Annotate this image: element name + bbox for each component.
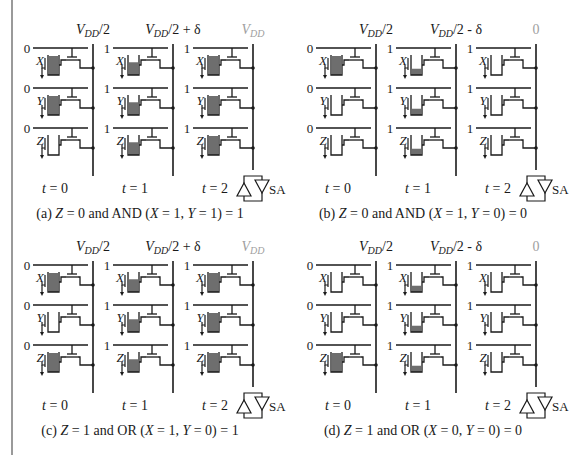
ground-arrow-icon [323, 332, 327, 336]
cell-label: Y [319, 93, 328, 108]
column-t2: 01X1Y1Zt = 2SA [467, 22, 569, 201]
time-step-label: t = 2 [202, 398, 228, 413]
panel-caption: (a) Z = 0 and AND (X = 1, Y = 1) = 1 [36, 206, 243, 222]
panel-c: VDD/20X0Y0Zt = 0VDD/2 + δ1X1Y1Zt = 1VDD1… [24, 239, 286, 439]
junction-dot [251, 323, 255, 327]
cell-label: Z [36, 133, 44, 148]
time-step-label: t = 2 [202, 181, 228, 196]
junction-dot [374, 146, 378, 150]
wordline-value: 0 [24, 298, 31, 313]
capacitor-charge [129, 279, 138, 292]
dram-cell-y: 1Y [387, 298, 458, 336]
dram-cell-y: 1Y [387, 81, 458, 119]
junction-dot [454, 323, 458, 327]
dram-cell-x: 1X [467, 258, 538, 296]
junction-dot [251, 363, 255, 367]
capacitor-charge [209, 273, 218, 292]
dram-cell-x: 1X [104, 258, 175, 296]
cell-label: Y [36, 310, 45, 325]
sense-amplifier-icon: SA [237, 393, 286, 418]
junction-dot [91, 66, 95, 70]
time-step-label: t = 2 [485, 398, 511, 413]
cell-label: X [195, 270, 205, 285]
capacitor-charge [209, 56, 218, 75]
dram-cell-x: 0X [24, 258, 95, 296]
cell-label: Y [399, 93, 408, 108]
wordline-value: 1 [467, 121, 474, 136]
ground-arrow-icon [200, 115, 204, 119]
dram-cell-z: 1Z [387, 338, 458, 376]
wordline-value: 1 [184, 81, 191, 96]
cell-label: Y [36, 93, 45, 108]
cell-label: X [195, 53, 205, 68]
capacitor [331, 312, 342, 332]
bitline-voltage-label: VDD/2 + δ [145, 22, 201, 39]
panel-d: VDD/20X0Y0Zt = 0VDD/2 - δ1X1Y1Zt = 101X1… [307, 239, 569, 439]
time-step-label: t = 1 [405, 181, 431, 196]
dram-cell-z: 1Z [104, 121, 175, 159]
capacitor-charge [332, 353, 341, 372]
dram-cell-z: 1Z [387, 121, 458, 159]
ground-arrow-icon [483, 155, 487, 159]
dram-cell-y: 0Y [24, 81, 95, 119]
dram-cell-z: 1Z [467, 338, 538, 376]
wordline-value: 0 [24, 338, 31, 353]
dram-cell-y: 1Y [184, 298, 255, 336]
junction-dot [251, 146, 255, 150]
ground-arrow-icon [483, 332, 487, 336]
column-t0: VDD/20X0Y0Zt = 0 [24, 22, 110, 196]
dram-cell-z: 0Z [24, 338, 95, 376]
cell-label: X [318, 270, 328, 285]
dram-cell-y: 0Y [307, 81, 378, 119]
wordline-value: 1 [104, 41, 111, 56]
capacitor-charge [129, 62, 138, 75]
wordline-value: 0 [24, 258, 31, 273]
ground-arrow-icon [120, 292, 124, 296]
cell-label: X [115, 53, 125, 68]
ground-arrow-icon [120, 155, 124, 159]
ground-arrow-icon [323, 155, 327, 159]
wordline-value: 0 [307, 121, 314, 136]
column-t2: VDD1X1Y1Zt = 2SA [184, 22, 286, 201]
capacitor-charge [412, 69, 421, 75]
wordline-value: 1 [467, 81, 474, 96]
capacitor-charge [412, 326, 421, 332]
ground-arrow-icon [483, 75, 487, 79]
dram-cell-x: 1X [184, 41, 255, 79]
capacitor-charge [412, 366, 421, 372]
time-step-label: t = 0 [42, 181, 68, 196]
wordline-value: 0 [307, 81, 314, 96]
wordline-value: 1 [104, 81, 111, 96]
sense-amplifier-icon: SA [520, 176, 569, 201]
ground-arrow-icon [200, 372, 204, 376]
ground-arrow-icon [403, 115, 407, 119]
capacitor-charge [209, 96, 218, 115]
triple-row-activation-figure: VDD/20X0Y0Zt = 0VDD/2 + δ1X1Y1Zt = 1VDD1… [0, 0, 571, 455]
ground-arrow-icon [120, 115, 124, 119]
sense-amplifier-icon: SA [237, 176, 286, 201]
ground-arrow-icon [40, 115, 44, 119]
junction-dot [374, 323, 378, 327]
ground-arrow-icon [403, 75, 407, 79]
junction-dot [251, 106, 255, 110]
dram-cell-x: 0X [24, 41, 95, 79]
ground-arrow-icon [40, 155, 44, 159]
junction-dot [91, 363, 95, 367]
ground-arrow-icon [200, 155, 204, 159]
dram-cell-z: 1Z [467, 121, 538, 159]
capacitor [48, 135, 59, 155]
dram-cell-x: 0X [307, 41, 378, 79]
ground-arrow-icon [200, 292, 204, 296]
cell-label: Z [319, 350, 327, 365]
junction-dot [534, 363, 538, 367]
time-step-label: t = 0 [325, 181, 351, 196]
junction-dot [374, 106, 378, 110]
junction-dot [171, 363, 175, 367]
cell-label: Z [479, 350, 487, 365]
wordline-value: 1 [467, 258, 474, 273]
cell-label: X [115, 270, 125, 285]
sense-amplifier-icon: SA [520, 393, 569, 418]
wordline-value: 1 [467, 338, 474, 353]
capacitor-charge [129, 102, 138, 115]
capacitor [491, 312, 502, 332]
